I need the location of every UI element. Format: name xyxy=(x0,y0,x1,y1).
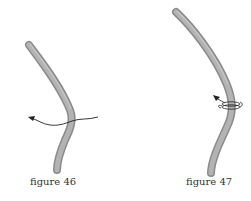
arrowhead-icon xyxy=(28,116,35,121)
rod-shape xyxy=(29,45,72,170)
rod-crossing-diagram xyxy=(0,0,125,201)
arrowhead-icon xyxy=(213,95,220,101)
rod-shape xyxy=(176,12,232,173)
rod-wrap-diagram xyxy=(125,0,251,201)
figure-47-caption: figure 47 xyxy=(186,176,232,187)
figure-47: figure 47 xyxy=(125,0,251,201)
figure-46: figure 46 xyxy=(0,0,125,201)
figure-46-caption: figure 46 xyxy=(30,176,76,187)
wavy-arrow-line xyxy=(31,117,98,125)
